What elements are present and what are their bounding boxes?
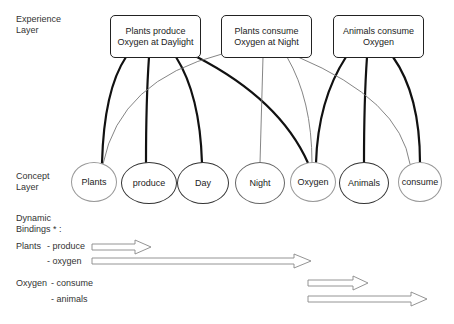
arrow-plants-produce	[92, 240, 151, 254]
arrow-oxygen-consume	[308, 276, 368, 290]
binding-arrows	[0, 0, 454, 324]
arrow-plants-oxygen	[92, 254, 311, 268]
arrow-oxygen-animals	[308, 292, 427, 306]
